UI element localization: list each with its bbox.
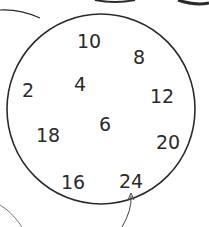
number-16: 16 — [61, 173, 85, 192]
number-12: 12 — [150, 87, 174, 106]
number-24: 24 — [119, 172, 143, 191]
bottom-left-line — [0, 205, 22, 227]
number-4: 4 — [74, 75, 86, 94]
top-left-fragment — [0, 10, 40, 18]
number-2: 2 — [22, 81, 34, 100]
top-fragment-curve — [95, 0, 135, 2]
number-20: 20 — [156, 133, 180, 152]
number-6: 6 — [99, 115, 111, 134]
number-8: 8 — [133, 48, 145, 67]
number-18: 18 — [36, 126, 60, 145]
top-right-fragment — [178, 0, 209, 4]
number-10: 10 — [77, 32, 101, 51]
